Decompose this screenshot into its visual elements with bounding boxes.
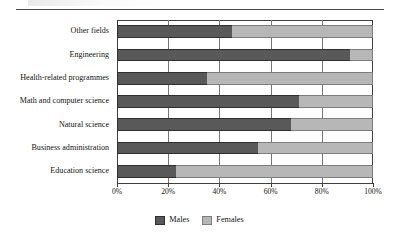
legend-swatch-females-icon xyxy=(202,216,212,225)
legend-label-males: Males xyxy=(169,216,189,224)
header-ghost-text xyxy=(28,0,208,6)
category-label: Other fields xyxy=(0,27,113,35)
category-label: Engineering xyxy=(0,51,113,59)
bar-row xyxy=(117,165,373,178)
x-tick-label: 20% xyxy=(161,188,175,196)
category-label: Natural science xyxy=(0,121,113,129)
bar-series xyxy=(117,20,373,183)
chart-legend: Males Females xyxy=(0,216,399,225)
x-axis-tick-labels: 0%20%40%60%80%100% xyxy=(117,188,373,200)
category-label: Business administration xyxy=(0,144,113,152)
category-label: Math and computer science xyxy=(0,97,113,105)
x-axis-line xyxy=(117,183,374,184)
bar-row xyxy=(117,49,373,62)
category-axis-labels: Other fields Engineering Health-related … xyxy=(0,20,113,183)
category-label: Health-related programmes xyxy=(0,74,113,82)
bar-segment-females xyxy=(258,142,373,155)
legend-item-females: Females xyxy=(202,216,243,225)
x-tick-label: 60% xyxy=(264,188,278,196)
x-tick-label: 80% xyxy=(315,188,329,196)
x-tick-label: 0% xyxy=(112,188,122,196)
bar-segment-males xyxy=(117,165,176,178)
bar-row xyxy=(117,142,373,155)
bar-segment-females xyxy=(350,49,373,62)
bar-segment-females xyxy=(232,25,373,38)
bar-segment-males xyxy=(117,118,291,131)
bar-segment-females xyxy=(299,95,373,108)
x-tick-label: 40% xyxy=(212,188,226,196)
bar-segment-males xyxy=(117,25,232,38)
x-tick-label: 100% xyxy=(364,188,382,196)
bar-row xyxy=(117,72,373,85)
bar-row xyxy=(117,118,373,131)
header-rule xyxy=(16,9,384,10)
bar-segment-females xyxy=(207,72,373,85)
category-label: Education science xyxy=(0,167,113,175)
legend-label-females: Females xyxy=(216,216,243,224)
bar-segment-males xyxy=(117,95,299,108)
bar-segment-females xyxy=(291,118,373,131)
bar-segment-males xyxy=(117,72,207,85)
legend-swatch-males-icon xyxy=(155,216,165,225)
legend-item-males: Males xyxy=(155,216,189,225)
bar-row xyxy=(117,95,373,108)
bar-segment-females xyxy=(176,165,373,178)
bar-segment-males xyxy=(117,142,258,155)
plot-area xyxy=(117,20,373,183)
bar-row xyxy=(117,25,373,38)
bar-segment-males xyxy=(117,49,350,62)
chart-figure: Other fields Engineering Health-related … xyxy=(0,0,399,250)
